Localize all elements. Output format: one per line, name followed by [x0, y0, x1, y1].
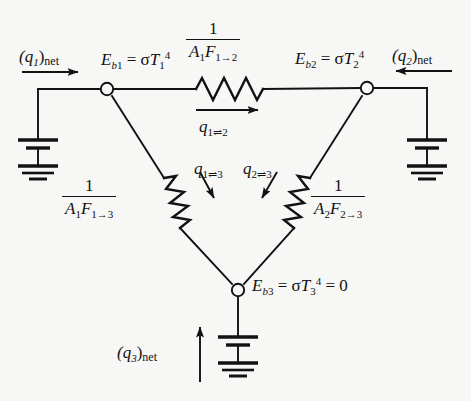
fraction-bar [62, 196, 116, 197]
node-1-label: Eb1 = σT14 [101, 50, 170, 71]
resistor-1-3-value: 1 A1F1→3 [62, 177, 116, 220]
wire-resistor13-to-node3 [180, 228, 232, 284]
node-3-terminal [232, 284, 244, 296]
resistor-1-2-zigzag [196, 78, 263, 100]
wire-node2-to-resistor23 [310, 96, 362, 178]
node-1-terminal [101, 83, 113, 95]
source-1-label: (q1)net [19, 48, 59, 68]
wire-node1-to-resistor13 [112, 96, 164, 178]
source-2-label: (q2)net [392, 47, 432, 67]
node-2-terminal [361, 82, 373, 94]
fraction-bar [311, 196, 365, 197]
node-3-label: Eb3 = σT34 = 0 [252, 276, 348, 297]
resistor-2-3-flow-label: q2⇌3 [243, 160, 272, 180]
wire-resistor12-to-node2 [263, 88, 360, 89]
fraction-bar [186, 39, 240, 40]
resistor-2-3-zigzag [284, 176, 310, 228]
source-3-label: (q3)net [117, 344, 157, 364]
node-2-label: Eb2 = σT24 [295, 49, 364, 70]
source-1-battery-ground [18, 140, 58, 179]
source-3-battery-ground [218, 337, 258, 376]
resistor-1-2-value: 1 A1F1→2 [186, 20, 240, 63]
resistor-1-3-zigzag [164, 176, 190, 228]
source-2-battery-ground [407, 140, 447, 179]
radiation-network-figure: (q1)net (q2)net (q3)net Eb1 = σT14 Eb2 =… [0, 0, 471, 401]
resistor-2-3-value: 1 A2F2→3 [311, 177, 365, 220]
resistor-1-3-flow-label: q1⇌3 [194, 160, 223, 180]
resistor-1-2-flow-label: q1⇌2 [199, 118, 228, 138]
